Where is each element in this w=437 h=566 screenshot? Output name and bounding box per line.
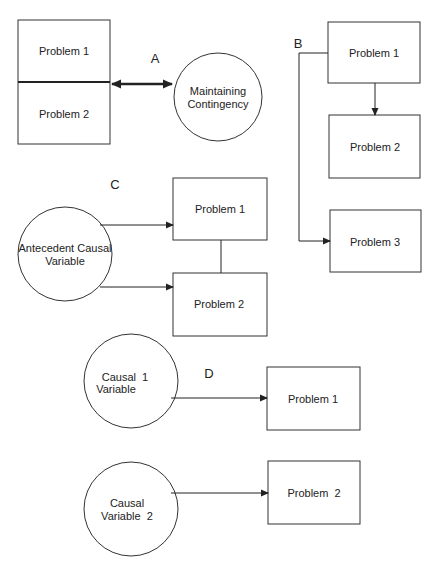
panel-c-problem-1: Problem 1	[195, 203, 245, 215]
maintaining-contingency-line2: Contingency	[187, 98, 249, 110]
panel-a-label: A	[151, 51, 160, 66]
panel-d-problem-2: Problem 2	[287, 487, 340, 499]
panel-b-problem-1: Problem 1	[349, 47, 399, 59]
panel-b-label: B	[294, 36, 303, 51]
maintaining-contingency-node	[174, 53, 262, 141]
causal-variable-2-node	[84, 462, 178, 556]
diagram-canvas: Problem 1 Problem 2 A Maintaining Contin…	[0, 0, 437, 566]
panel-d-problem-1: Problem 1	[288, 393, 338, 405]
causal-1-line2: Variable	[96, 383, 136, 395]
causal-variable-2-line1: Causal	[110, 497, 144, 509]
antecedent-causal-variable-node	[18, 207, 112, 301]
panel-a-problem-2: Problem 2	[39, 108, 89, 120]
panel-b-problem-2: Problem 2	[350, 141, 400, 153]
causal-1-line1: Causal 1	[102, 371, 148, 383]
panel-d: D Causal 1 Variable Problem 1 Causal Var…	[84, 334, 360, 556]
panel-c: C Antecedent Causal Variable Problem 1 P…	[18, 177, 267, 336]
panel-c-label: C	[110, 177, 119, 192]
panel-a: Problem 1 Problem 2 A Maintaining Contin…	[18, 20, 262, 144]
causal-variable-2-line2: Variable 2	[101, 510, 153, 522]
panel-d-label: D	[204, 366, 213, 381]
panel-b: B Problem 1 Problem 2 Problem 3	[294, 22, 421, 272]
panel-b-arrow-1-to-3	[299, 53, 330, 241]
antecedent-causal-line2: Variable	[45, 255, 85, 267]
panel-b-problem-3: Problem 3	[350, 236, 400, 248]
panel-a-problem-1: Problem 1	[39, 45, 89, 57]
maintaining-contingency-line1: Maintaining	[190, 85, 246, 97]
panel-c-problem-2: Problem 2	[194, 298, 244, 310]
antecedent-causal-line1: Antecedent Causal	[19, 242, 112, 254]
